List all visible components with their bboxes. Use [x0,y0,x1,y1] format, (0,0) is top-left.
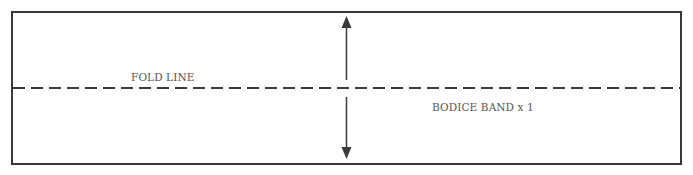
fold-line-label: FOLD LINE [131,71,195,83]
grainline-arrow-down-icon [342,97,352,159]
pattern-piece-label: BODICE BAND x 1 [432,101,534,113]
grainline-arrow-up-icon [342,16,352,80]
pattern-markings [0,0,693,175]
